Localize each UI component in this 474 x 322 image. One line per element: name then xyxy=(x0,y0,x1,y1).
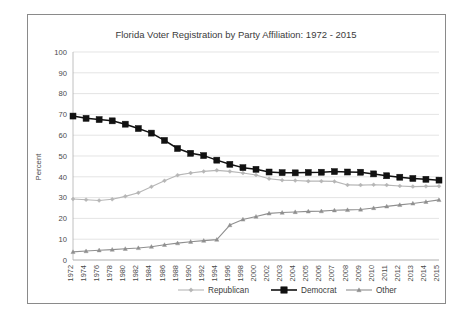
legend-label-democrat[interactable]: Democrat xyxy=(301,286,337,295)
chart-legend: RepublicanDemocratOther xyxy=(178,286,397,295)
data-point-marker xyxy=(332,179,336,183)
x-tick-label: 2015 xyxy=(432,265,441,281)
x-tick-label: 1998 xyxy=(236,265,245,281)
data-point-marker xyxy=(346,183,350,187)
data-point-marker xyxy=(410,175,416,181)
chart-title: Florida Voter Registration by Party Affi… xyxy=(115,29,356,40)
y-tick-label: 90 xyxy=(59,69,67,78)
x-tick-label: 2003 xyxy=(275,265,284,281)
x-tick-label: 1992 xyxy=(197,265,206,281)
x-tick-label: 2013 xyxy=(406,265,415,281)
data-point-marker xyxy=(188,150,194,156)
data-point-marker xyxy=(163,179,167,183)
x-tick-label: 2005 xyxy=(301,265,310,281)
data-point-marker xyxy=(253,166,259,172)
x-tick-label: 2004 xyxy=(288,265,297,281)
data-point-marker xyxy=(227,161,233,167)
y-tick-label: 80 xyxy=(59,89,67,98)
x-tick-label: 1988 xyxy=(171,265,180,281)
data-point-marker xyxy=(319,179,323,183)
data-point-marker xyxy=(228,169,232,173)
series-other xyxy=(71,198,441,254)
data-point-marker xyxy=(411,185,415,189)
y-tick-label: 0 xyxy=(63,256,67,265)
data-point-marker xyxy=(149,185,153,189)
data-point-marker xyxy=(371,171,377,177)
data-point-marker xyxy=(359,183,363,187)
data-point-marker xyxy=(437,184,441,188)
data-point-marker xyxy=(423,176,429,182)
data-point-marker xyxy=(96,117,102,123)
data-point-marker xyxy=(136,191,140,195)
y-tick-label: 100 xyxy=(54,48,67,57)
data-point-marker xyxy=(293,179,297,183)
data-point-marker xyxy=(345,169,351,175)
data-point-marker xyxy=(83,115,89,121)
data-point-marker xyxy=(358,169,364,175)
data-point-marker xyxy=(384,173,390,179)
data-point-marker xyxy=(424,184,428,188)
x-tick-label: 1986 xyxy=(158,265,167,281)
x-axis-tick-labels: 1972197419761978198019821984198619881990… xyxy=(66,265,441,281)
x-tick-label: 2011 xyxy=(380,265,389,281)
data-point-marker xyxy=(292,170,298,176)
x-tick-label: 2008 xyxy=(341,265,350,281)
x-tick-label: 1978 xyxy=(105,265,114,281)
data-point-marker xyxy=(70,113,76,119)
data-point-marker xyxy=(305,169,311,175)
x-tick-label: 1984 xyxy=(144,265,153,281)
y-tick-label: 50 xyxy=(59,152,67,161)
y-axis-title: Percent xyxy=(34,153,43,181)
x-tick-label: 2007 xyxy=(327,265,336,281)
data-point-marker xyxy=(122,121,128,127)
y-tick-label: 10 xyxy=(59,235,67,244)
legend-label-republican[interactable]: Republican xyxy=(208,286,249,295)
x-tick-label: 2010 xyxy=(367,265,376,281)
y-tick-label: 60 xyxy=(59,131,67,140)
data-point-marker xyxy=(267,177,271,181)
data-point-marker xyxy=(280,178,284,182)
x-tick-label: 1974 xyxy=(79,265,88,281)
x-tick-label: 1972 xyxy=(66,265,75,281)
data-point-marker xyxy=(189,171,193,175)
data-point-marker xyxy=(240,165,246,171)
data-point-marker xyxy=(84,198,88,202)
data-point-marker xyxy=(202,169,206,173)
x-tick-label: 2014 xyxy=(419,265,428,281)
data-point-marker xyxy=(135,126,141,132)
data-point-marker xyxy=(372,183,376,187)
data-point-marker xyxy=(306,179,310,183)
data-point-marker xyxy=(175,146,181,152)
x-tick-label: 1976 xyxy=(92,265,101,281)
data-point-marker xyxy=(397,174,403,180)
data-point-marker xyxy=(318,169,324,175)
data-point-marker xyxy=(266,169,272,175)
data-series-group xyxy=(70,113,442,254)
y-tick-label: 20 xyxy=(59,214,67,223)
voter-registration-line-chart: Florida Voter Registration by Party Affi… xyxy=(28,15,445,303)
series-democrat xyxy=(70,113,442,183)
legend-label-other[interactable]: Other xyxy=(376,286,397,295)
x-tick-label: 1990 xyxy=(184,265,193,281)
gridlines xyxy=(73,52,439,260)
y-tick-label: 70 xyxy=(59,110,67,119)
x-tick-label: 2009 xyxy=(354,265,363,281)
x-tick-label: 1980 xyxy=(118,265,127,281)
data-point-marker xyxy=(331,169,337,175)
chart-container: Florida Voter Registration by Party Affi… xyxy=(27,14,446,304)
data-point-marker xyxy=(254,173,258,177)
data-point-marker xyxy=(148,130,154,136)
x-tick-label: 2006 xyxy=(314,265,323,281)
y-axis-tick-labels: 0102030405060708090100 xyxy=(54,48,67,265)
data-point-marker xyxy=(281,287,287,293)
data-point-marker xyxy=(97,199,101,203)
data-point-marker xyxy=(162,137,168,143)
data-point-marker xyxy=(214,157,220,163)
data-point-marker xyxy=(109,118,115,124)
x-tick-label: 2002 xyxy=(262,265,271,281)
data-point-marker xyxy=(201,153,207,159)
y-tick-label: 40 xyxy=(59,173,67,182)
series-line xyxy=(73,200,439,252)
x-tick-label: 2000 xyxy=(249,265,258,281)
y-tick-label: 30 xyxy=(59,193,67,202)
